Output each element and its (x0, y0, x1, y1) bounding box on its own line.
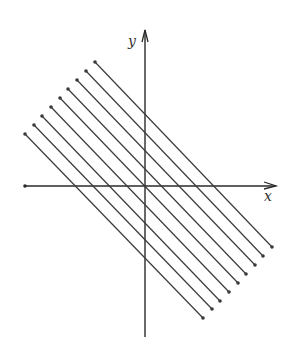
x-axis-start-dot (23, 184, 27, 188)
line-start-dot (84, 69, 88, 73)
line-start-dot (58, 96, 62, 100)
x-axis-label: x (264, 188, 272, 204)
parallel-line (95, 62, 272, 247)
line-family (23, 60, 274, 320)
line-start-dot (32, 123, 36, 127)
diagram: y x (0, 0, 298, 349)
line-start-dot (23, 132, 27, 136)
line-start-dot (49, 105, 53, 109)
line-start-dot (40, 114, 44, 118)
line-start-dot (93, 60, 97, 64)
parallel-line (68, 89, 246, 274)
line-start-dot (75, 78, 79, 82)
parallel-line (25, 134, 203, 318)
parallel-lines-plot: y x (0, 0, 298, 349)
parallel-line (86, 71, 263, 256)
parallel-line (42, 116, 220, 301)
line-end-dot (210, 307, 214, 311)
line-end-dot (244, 272, 248, 276)
axes (23, 30, 276, 337)
line-end-dot (236, 281, 240, 285)
line-end-dot (227, 290, 231, 294)
parallel-line (77, 80, 255, 265)
parallel-line (51, 107, 229, 292)
line-end-dot (218, 299, 222, 303)
line-start-dot (66, 87, 70, 91)
line-end-dot (253, 263, 257, 267)
parallel-line (60, 98, 238, 283)
line-end-dot (201, 316, 205, 320)
line-end-dot (270, 245, 274, 249)
parallel-line (34, 125, 212, 309)
line-end-dot (261, 254, 265, 258)
y-axis-label: y (127, 33, 137, 49)
